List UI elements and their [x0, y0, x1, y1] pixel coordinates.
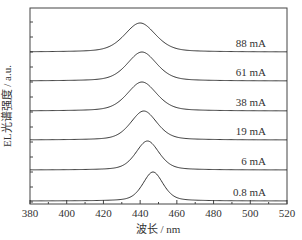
x-tick-label: 440 [132, 207, 149, 219]
series-label: 19 mA [236, 125, 266, 137]
x-tick-label: 380 [22, 207, 39, 219]
series-label: 61 mA [236, 66, 266, 78]
series-label: 88 mA [236, 37, 266, 49]
x-axis-title: 波长 / nm [136, 223, 181, 235]
series-labels: 88 mA61 mA38 mA19 mA6 mA0.8 mA [233, 37, 266, 198]
x-tick-label: 420 [95, 207, 112, 219]
series-label: 38 mA [236, 96, 266, 108]
x-tick-label: 500 [242, 207, 259, 219]
el-spectrum-chart: 380400420440460480500520 88 mA61 mA38 mA… [0, 0, 302, 240]
series-label: 6 mA [241, 155, 266, 167]
x-tick-label: 480 [205, 207, 222, 219]
spectrum-curves [30, 23, 287, 201]
x-tick-label: 520 [279, 207, 296, 219]
y-axis-title: EL光谱强度 / a.u. [0, 65, 13, 147]
x-tick-label: 460 [169, 207, 186, 219]
x-tick-label: 400 [58, 207, 75, 219]
series-label: 0.8 mA [233, 186, 266, 198]
